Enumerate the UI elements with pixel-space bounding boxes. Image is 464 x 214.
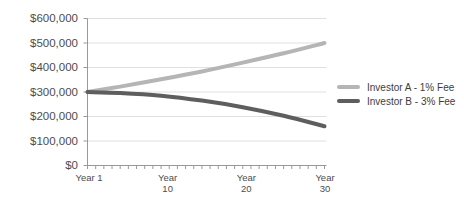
y-axis-tick-label: $300,000 [0, 86, 78, 99]
legend-swatch-investor-a [337, 85, 360, 89]
y-gridlines [88, 19, 327, 142]
chart-legend: Investor A - 1% Fee Investor B - 3% Fee [337, 82, 455, 106]
fee-comparison-line-chart: $600,000$500,000$400,000$300,000$200,000… [0, 0, 464, 214]
x-axis-tick-label: Year30 [302, 172, 348, 194]
x-axis-tick-label: Year10 [145, 172, 191, 194]
legend-swatch-investor-b [337, 99, 360, 103]
series-lines [88, 43, 325, 126]
y-axis-tick-label: $200,000 [0, 110, 78, 123]
x-axis-tick-label-line: 10 [145, 183, 191, 194]
series-line-investor-b-3-fee [88, 92, 325, 126]
legend-label-investor-a: Investor A - 1% Fee [367, 82, 454, 93]
y-axis-tick-label: $100,000 [0, 135, 78, 148]
legend-label-investor-b: Investor B - 3% Fee [367, 96, 455, 107]
x-axis-tick-label-line: Year [145, 172, 191, 183]
legend-item-investor-a: Investor A - 1% Fee [337, 82, 455, 92]
x-axis-tick-label-line: 30 [302, 183, 348, 194]
x-axis-tick-label-line: Year 1 [66, 172, 112, 183]
y-axis-tick-label: $0 [0, 159, 78, 172]
x-axis-tick-label: Year 1 [66, 172, 112, 183]
legend-item-investor-b: Investor B - 3% Fee [337, 96, 455, 106]
y-axis-tick-label: $400,000 [0, 61, 78, 74]
x-axis-tick-label-line: Year [302, 172, 348, 183]
x-axis-tick-label-line: 20 [223, 183, 269, 194]
y-axis-tick-label: $600,000 [0, 12, 78, 25]
x-axis-tick-label: Year20 [223, 172, 269, 194]
x-axis-tick-label-line: Year [223, 172, 269, 183]
y-axis-tick-label: $500,000 [0, 37, 78, 50]
